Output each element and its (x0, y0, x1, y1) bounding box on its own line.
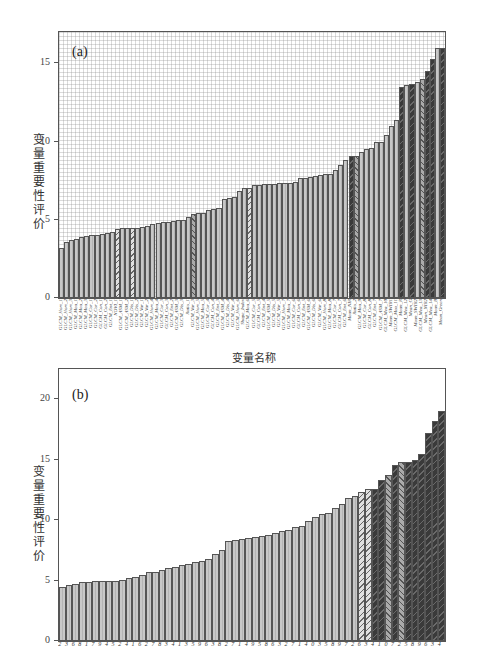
x-tick-label: 1 (178, 641, 181, 647)
x-tick-label: 8 (331, 641, 334, 647)
bar (265, 535, 272, 641)
x-tick-label: 0 (311, 641, 314, 647)
x-tick-label: 4 (171, 641, 174, 647)
bar (99, 581, 106, 641)
bar (79, 582, 86, 641)
x-tick-label: 8 (265, 641, 268, 647)
bar (339, 504, 346, 641)
x-tick-label: 9 (198, 641, 201, 647)
x-tick-label: GLCM_Dis_2 (134, 299, 139, 327)
y-tick-label: 10 (30, 135, 50, 146)
x-tick-label: 7 (391, 641, 394, 647)
bar (212, 554, 219, 641)
x-tick-label: 7 (291, 641, 294, 647)
x-tick-label: 1 (85, 641, 88, 647)
bar (59, 587, 66, 641)
y-tick-label: 15 (30, 453, 50, 464)
x-tick-label: 7 (345, 641, 348, 647)
x-tick-label: 2 (225, 641, 228, 647)
x-tick-label: GLCM_Hom_8 (322, 299, 327, 330)
x-tick-label: 3 (185, 641, 188, 647)
x-tick-label: GLCM_ASM_7 (378, 299, 383, 330)
x-tick-label: 5 (325, 641, 328, 647)
plot-area-a (58, 31, 446, 299)
bar (385, 475, 392, 641)
y-tick-label: 0 (30, 634, 50, 645)
bar (305, 521, 312, 641)
x-tick-label: 7 (152, 641, 155, 647)
x-tick-label: 6 (205, 641, 208, 647)
x-tick-label: 4 (438, 641, 441, 647)
bar (365, 489, 372, 641)
bar (299, 526, 306, 641)
bar (172, 567, 179, 641)
bar (325, 513, 332, 641)
x-tick-label: GLCM_Hom_2 (63, 299, 68, 330)
bar (259, 536, 266, 641)
bar (292, 527, 299, 641)
bar (438, 411, 445, 641)
x-tick-label: 9 (418, 641, 421, 647)
x-tick-label: GLCM_Hom_3 (68, 299, 73, 330)
x-tick-label: 9 (98, 641, 101, 647)
x-tick-label: GLCM_Var_6 (317, 299, 322, 327)
bar (378, 480, 385, 641)
x-tick-label: 4 (125, 641, 128, 647)
x-tick-label: 4 (105, 641, 108, 647)
x-tick-label: 9 (251, 641, 254, 647)
x-tick-label: 4 (371, 641, 374, 647)
x-tick-label: GLCM_Var_3 (190, 299, 195, 327)
x-tick-label: GLCM_Cor_5 (251, 299, 256, 328)
bar (72, 584, 79, 641)
bar (225, 541, 232, 641)
x-tick-label: GLCM_Ent_4 (261, 299, 266, 327)
x-tick-label: GLCM_Mea_8 (327, 299, 332, 329)
x-tick-label: 9 (338, 641, 341, 647)
x-tick-label: Mean_SWIR1 (388, 299, 393, 327)
panel-b: 变量重要性评价 05101520 (b) 2368179452416278341… (0, 365, 501, 648)
y-tick-label: 10 (30, 513, 50, 524)
bar (312, 517, 319, 642)
bar (319, 514, 326, 641)
x-tick-label: 3 (278, 641, 281, 647)
x-tick-label: GLCM_Ent_7 (372, 299, 377, 327)
x-tick-label: 2 (58, 641, 61, 647)
x-tick-label: 2 (118, 641, 121, 647)
x-tick-label: 3 (165, 641, 168, 647)
x-tick-label: 7 (231, 641, 234, 647)
x-tick-label: 4 (245, 641, 248, 647)
x-tick-label: GLCM_Dis_6 (311, 299, 316, 327)
x-tick-label: 5 (404, 641, 407, 647)
panel-label-a: (a) (72, 44, 88, 60)
x-tick-label: GLCM_Hom_1 (58, 299, 63, 330)
bar (192, 562, 199, 641)
y-tick-label: 5 (30, 213, 50, 224)
bar (272, 533, 279, 641)
x-tick-label: GLCM_ASM_2 (124, 299, 129, 330)
bar (185, 564, 192, 641)
bar (405, 462, 412, 641)
bar (179, 565, 186, 641)
x-tick-label: 7 (92, 641, 95, 647)
x-tick-label: 5 (258, 641, 261, 647)
x-axis-label-a: 变量名称 (232, 349, 276, 365)
y-tick-label: 15 (30, 56, 50, 67)
x-tick-label: 8 (158, 641, 161, 647)
bar (66, 585, 73, 641)
bar (332, 508, 339, 641)
bar (86, 582, 93, 641)
x-tick-label: GLCM_Dis_1 (129, 299, 134, 327)
x-tick-label: 2 (145, 641, 148, 647)
bar (126, 578, 133, 641)
y-tick-label: 0 (30, 291, 50, 302)
bar (440, 48, 445, 298)
bar (112, 581, 119, 641)
x-tick-label: GLCM_Mea_5 (200, 299, 205, 329)
y-tick-label: 20 (30, 392, 50, 403)
y-tick-label: 5 (30, 574, 50, 585)
bar (252, 537, 259, 641)
bar (358, 492, 365, 641)
bar (418, 454, 425, 641)
bar (398, 462, 405, 641)
bar (159, 570, 166, 641)
